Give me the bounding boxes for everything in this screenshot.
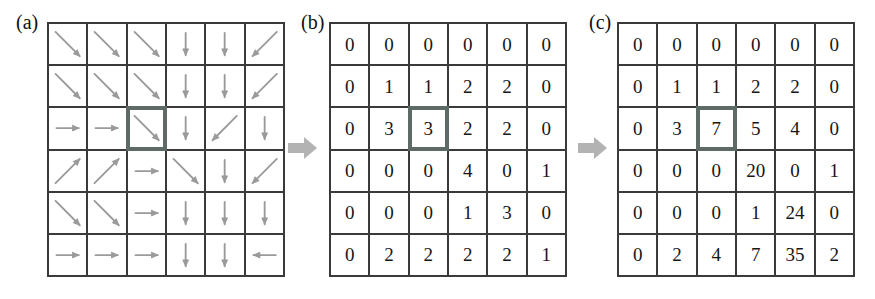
grid-cell[interactable]: 0 [331, 66, 370, 108]
grid-cell[interactable]: 0 [816, 66, 855, 108]
grid-cell[interactable] [206, 151, 245, 193]
grid-cell[interactable]: 0 [619, 24, 658, 66]
grid-cell[interactable] [246, 24, 285, 66]
grid-cell[interactable]: 0 [528, 66, 567, 108]
grid-cell[interactable] [128, 193, 167, 235]
grid-cell[interactable]: 0 [658, 24, 697, 66]
grid-cell[interactable]: 0 [528, 24, 567, 66]
grid-cell[interactable]: 0 [776, 24, 815, 66]
grid-cell[interactable]: 0 [528, 193, 567, 235]
grid-cell[interactable] [246, 235, 285, 277]
grid-cell[interactable]: 24 [776, 193, 815, 235]
grid-cell[interactable]: 0 [619, 193, 658, 235]
grid-cell[interactable] [88, 151, 127, 193]
grid-cell[interactable]: 0 [528, 108, 567, 150]
grid-cell[interactable]: 1 [658, 66, 697, 108]
grid-cell[interactable] [206, 235, 245, 277]
grid-cell[interactable]: 0 [698, 193, 737, 235]
grid-cell[interactable] [49, 108, 88, 150]
grid-cell[interactable] [167, 66, 206, 108]
grid-cell[interactable]: 0 [331, 193, 370, 235]
grid-cell[interactable] [88, 193, 127, 235]
grid-cell[interactable]: 3 [370, 108, 409, 150]
grid-cell[interactable] [167, 108, 206, 150]
grid-cell[interactable] [49, 193, 88, 235]
grid-cell[interactable]: 1 [698, 66, 737, 108]
grid-cell[interactable] [49, 151, 88, 193]
grid-cell-highlighted[interactable]: 3 [410, 108, 449, 150]
grid-cell[interactable]: 2 [776, 66, 815, 108]
grid-cell[interactable]: 0 [737, 24, 776, 66]
grid-cell[interactable]: 7 [737, 235, 776, 277]
grid-cell[interactable] [88, 108, 127, 150]
grid-cell[interactable]: 1 [370, 66, 409, 108]
grid-cell[interactable] [206, 24, 245, 66]
grid-cell[interactable]: 0 [331, 151, 370, 193]
grid-cell[interactable]: 0 [488, 24, 527, 66]
grid-cell[interactable]: 2 [658, 235, 697, 277]
grid-cell[interactable] [167, 24, 206, 66]
grid-cell[interactable]: 35 [776, 235, 815, 277]
grid-cell[interactable]: 0 [331, 108, 370, 150]
grid-cell[interactable]: 2 [816, 235, 855, 277]
grid-cell[interactable]: 1 [737, 193, 776, 235]
grid-cell[interactable]: 2 [449, 235, 488, 277]
grid-cell[interactable] [49, 235, 88, 277]
grid-cell[interactable] [128, 235, 167, 277]
grid-cell[interactable]: 1 [449, 193, 488, 235]
grid-cell[interactable]: 4 [449, 151, 488, 193]
grid-cell[interactable]: 3 [488, 193, 527, 235]
grid-cell[interactable]: 2 [370, 235, 409, 277]
grid-cell-highlighted[interactable]: 7 [698, 108, 737, 150]
grid-cell[interactable]: 0 [619, 108, 658, 150]
grid-cell[interactable] [206, 66, 245, 108]
grid-cell[interactable]: 20 [737, 151, 776, 193]
grid-cell[interactable]: 0 [816, 108, 855, 150]
grid-cell[interactable]: 0 [331, 235, 370, 277]
grid-cell[interactable] [246, 108, 285, 150]
grid-cell-highlighted[interactable] [128, 108, 167, 150]
grid-cell[interactable] [206, 193, 245, 235]
grid-cell[interactable] [88, 66, 127, 108]
grid-cell[interactable]: 1 [816, 151, 855, 193]
grid-cell[interactable] [167, 151, 206, 193]
grid-cell[interactable]: 1 [528, 151, 567, 193]
grid-cell[interactable]: 5 [737, 108, 776, 150]
grid-cell[interactable]: 0 [698, 24, 737, 66]
grid-cell[interactable]: 4 [776, 108, 815, 150]
grid-cell[interactable]: 0 [658, 193, 697, 235]
grid-cell[interactable]: 0 [776, 151, 815, 193]
grid-cell[interactable] [206, 108, 245, 150]
grid-cell[interactable]: 0 [619, 235, 658, 277]
grid-cell[interactable]: 0 [619, 66, 658, 108]
grid-cell[interactable]: 1 [410, 66, 449, 108]
grid-cell[interactable]: 0 [410, 151, 449, 193]
grid-cell[interactable]: 2 [410, 235, 449, 277]
grid-cell[interactable] [167, 193, 206, 235]
grid-cell[interactable]: 0 [816, 193, 855, 235]
grid-cell[interactable] [49, 66, 88, 108]
grid-cell[interactable]: 0 [449, 24, 488, 66]
grid-cell[interactable]: 0 [370, 193, 409, 235]
grid-cell[interactable] [49, 24, 88, 66]
grid-cell[interactable]: 2 [737, 66, 776, 108]
grid-cell[interactable]: 2 [488, 235, 527, 277]
grid-cell[interactable] [128, 151, 167, 193]
grid-cell[interactable]: 3 [658, 108, 697, 150]
grid-cell[interactable]: 0 [698, 151, 737, 193]
grid-cell[interactable]: 0 [410, 24, 449, 66]
grid-cell[interactable]: 2 [488, 66, 527, 108]
grid-cell[interactable]: 0 [410, 193, 449, 235]
grid-cell[interactable] [88, 235, 127, 277]
grid-cell[interactable]: 0 [658, 151, 697, 193]
grid-cell[interactable]: 0 [816, 24, 855, 66]
grid-cell[interactable]: 0 [370, 24, 409, 66]
grid-cell[interactable] [246, 66, 285, 108]
grid-cell[interactable] [88, 24, 127, 66]
grid-cell[interactable]: 0 [488, 151, 527, 193]
grid-cell[interactable]: 2 [488, 108, 527, 150]
grid-cell[interactable] [246, 193, 285, 235]
grid-cell[interactable]: 4 [698, 235, 737, 277]
grid-cell[interactable]: 0 [331, 24, 370, 66]
grid-cell[interactable]: 2 [449, 108, 488, 150]
